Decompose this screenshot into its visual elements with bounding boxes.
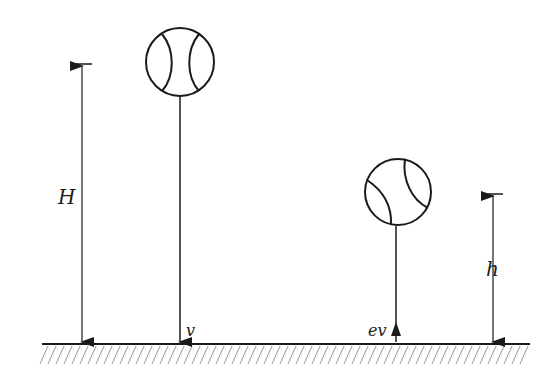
label-h: h bbox=[486, 257, 499, 281]
height-H-dimension: H bbox=[57, 64, 92, 342]
ball-at-height-h: ev bbox=[365, 159, 431, 342]
ground bbox=[40, 344, 530, 364]
label-ev: ev bbox=[368, 321, 387, 340]
height-h-dimension: h bbox=[483, 194, 503, 342]
bouncing-ball-diagram: H v ev h bbox=[0, 0, 560, 378]
ground-hatching bbox=[40, 346, 528, 364]
velocity-ev-arrowhead bbox=[391, 322, 401, 336]
ball-icon bbox=[365, 159, 431, 225]
label-H: H bbox=[57, 185, 76, 209]
ball-at-height-H: v bbox=[146, 28, 214, 342]
ball-icon bbox=[146, 28, 214, 96]
label-v: v bbox=[186, 321, 195, 340]
